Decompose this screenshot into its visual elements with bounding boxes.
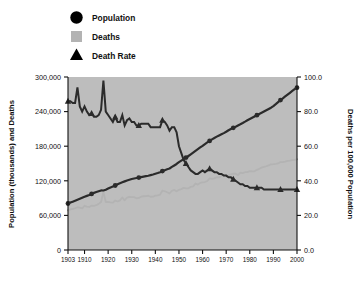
x-axis-tick-label: 1980 [243,256,258,263]
legend-item-population: Population [70,11,135,23]
series-marker-population [255,113,260,118]
legend-item-deaths: Deaths [71,31,120,42]
y2-axis-tick-label: 0.0 [304,246,314,255]
x-axis-tick-label: 1920 [101,256,116,263]
x-axis-tick-label: 1970 [219,256,234,263]
series-marker-population [136,175,141,180]
circle-marker-icon [70,11,82,23]
x-axis-tick-label: 1903 [61,256,76,263]
chart-figure: Population Deaths Death Rate 060,000120,… [0,0,358,283]
y-axis-tick-label: 240,000 [35,107,61,116]
legend-label-death-rate: Death Rate [92,51,136,61]
x-axis-tick-label: 1910 [77,256,92,263]
series-marker-population [184,155,189,160]
y2-axis-tick-label: 100.0 [304,73,322,82]
y2-axis-tick-label: 60.0 [304,142,318,151]
legend-label-population: Population [92,13,135,23]
legend-label-deaths: Deaths [92,32,120,42]
series-marker-population [113,183,118,188]
y2-axis-tick-label: 40.0 [304,177,318,186]
y-axis-tick-label: 0 [57,246,61,255]
y-axis-tick-label: 120,000 [35,177,61,186]
square-marker-icon [71,31,82,42]
y2-axis-tick-label: 20.0 [304,211,318,220]
chart-container: Population Deaths Death Rate 060,000120,… [0,0,358,283]
x-axis-tick-label: 1950 [172,256,187,263]
series-marker-population [231,125,236,130]
x-axis-tick-label: 1960 [195,256,210,263]
y-axis-tick-label: 60,000 [39,211,61,220]
x-axis-tick-label: 1930 [125,256,140,263]
series-marker-population [278,98,283,103]
y-axis-title: Population (thousands) and Deaths [7,100,16,228]
y2-axis-title: Deaths per 100,000 Population [346,109,355,220]
series-marker-population [160,169,165,174]
y-axis-tick-label: 180,000 [35,142,61,151]
series-marker-population [89,192,94,197]
x-axis-tick-label: 1990 [266,256,281,263]
y2-axis-tick-label: 80.0 [304,107,318,116]
y-axis-tick-label: 300,000 [35,73,61,82]
x-axis-tick-label: 1940 [148,256,163,263]
series-marker-population [207,139,212,144]
x-axis-tick-label: 2000 [290,256,305,263]
